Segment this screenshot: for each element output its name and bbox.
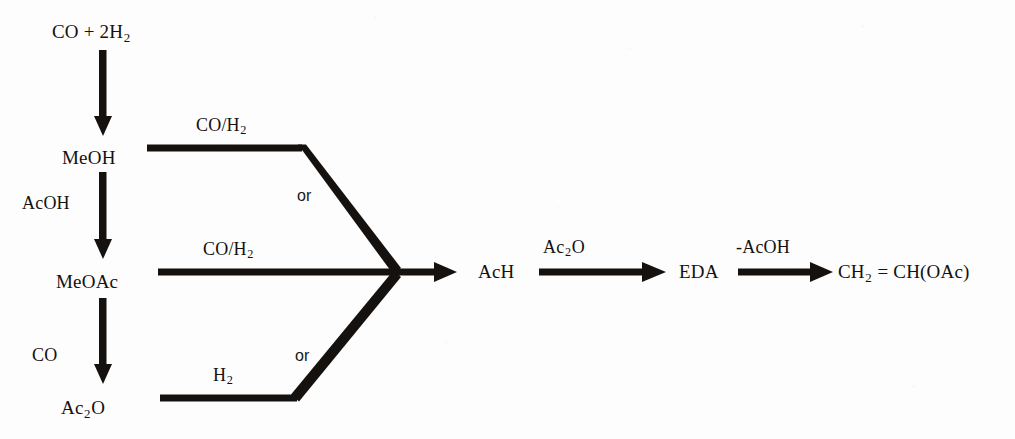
node-vinyl-acetate: CH2 = CH(OAc) (838, 262, 970, 285)
condition-minus-acoh: -AcOH (736, 238, 790, 256)
node-methanol: MeOH (62, 148, 116, 167)
condition-syngas-middle: CO/H2 (203, 240, 254, 261)
connector-or-upper: or (297, 188, 311, 204)
arrow-meoh-to-meoac (94, 172, 112, 259)
arrow-meoac-to-ac2o (94, 298, 112, 384)
arrow-junction-to-ach (396, 262, 457, 282)
condition-acetic-anhydride: Ac2O (543, 238, 585, 259)
condition-hydrogen: H2 (213, 366, 234, 387)
node-eda: EDA (679, 262, 719, 281)
condition-acoh: AcOH (22, 194, 70, 212)
reaction-scheme-diagram: diagonal down to junction --> straight t… (0, 0, 1015, 439)
connector-or-lower: or (295, 348, 309, 364)
arrow-syngas-to-meoh (94, 50, 112, 136)
node-methyl-acetate: MeOAc (56, 272, 118, 291)
branch-meoac-to-junction (158, 269, 400, 276)
condition-syngas-top: CO/H2 (196, 116, 247, 137)
condition-co: CO (32, 346, 57, 364)
arrow-ach-to-eda (539, 262, 666, 282)
node-acetic-anhydride: Ac2O (61, 398, 105, 421)
branch-ac2o-to-junction (160, 271, 401, 402)
reaction-arrows-layer: diagonal down to junction --> straight t… (0, 0, 1015, 439)
arrow-eda-to-vinyl-acetate (738, 262, 833, 282)
node-acetaldehyde: AcH (478, 262, 514, 281)
node-syngas: CO + 2H2 (52, 22, 131, 45)
branch-meoh-to-junction (147, 145, 401, 275)
